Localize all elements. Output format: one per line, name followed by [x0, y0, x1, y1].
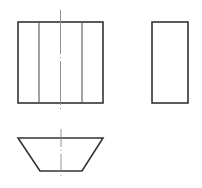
top-view — [18, 129, 103, 179]
front-view — [18, 10, 103, 111]
drawing-canvas — [0, 0, 202, 188]
side-view-outline — [152, 22, 188, 103]
top-view-trapezoid — [18, 138, 103, 171]
side-view — [152, 22, 188, 103]
